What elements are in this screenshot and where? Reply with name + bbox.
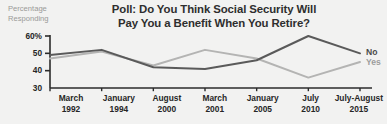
x-tick-label: August2000 (143, 93, 191, 114)
x-tick-label: July-August2015 (335, 93, 383, 114)
axis-group (45, 35, 372, 91)
series-line-yes (50, 50, 360, 78)
x-tick-label: July2010 (287, 93, 335, 114)
x-tick-label: January2005 (239, 93, 287, 114)
x-tick-label: January1994 (95, 93, 143, 114)
series-label-yes: Yes (366, 58, 381, 67)
poll-chart: Percentage Responding Poll: Do You Think… (0, 0, 387, 124)
x-axis-tick-labels: March1992January1994August2000March2001J… (47, 93, 383, 121)
series-label-no: No (366, 48, 377, 57)
x-tick-label: March1992 (47, 93, 95, 114)
series-group (50, 36, 360, 78)
x-tick-label: March2001 (191, 93, 239, 114)
